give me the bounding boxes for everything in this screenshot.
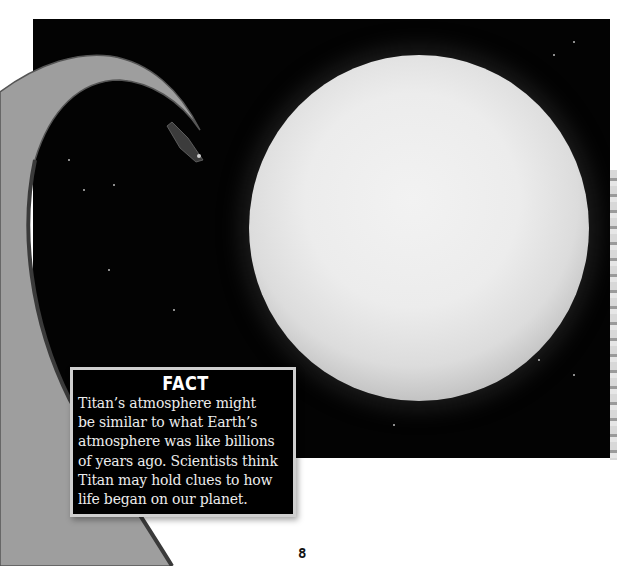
fact-title: FACT [94,372,277,394]
spacecraft-icon [167,122,203,162]
fact-box: FACT Titan’s atmosphere might be similar… [70,367,296,517]
page-edge-strip [610,170,617,460]
fact-text: Titan’s atmosphere might be similar to w… [78,394,293,509]
page-number: 8 [298,545,306,561]
